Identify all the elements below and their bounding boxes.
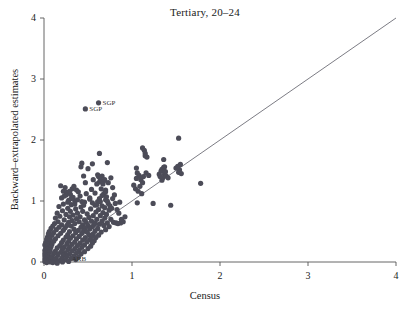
svg-text:SGP: SGP (89, 105, 102, 113)
plot-area: SGPSGPARB (0, 0, 410, 311)
svg-text:SGP: SGP (103, 99, 116, 107)
reference-line (44, 18, 396, 262)
data-points (42, 100, 203, 266)
svg-text:ARB: ARB (72, 255, 87, 263)
scatter-chart: Tertiary, 20–24 Backward–extrapolated es… (0, 0, 410, 311)
